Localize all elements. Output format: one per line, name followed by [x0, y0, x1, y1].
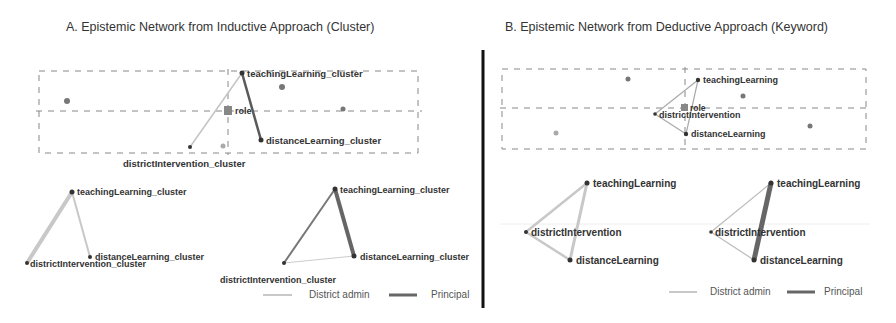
a-legend-principal: Principal — [431, 289, 469, 300]
panel-a-legend: District admin Principal — [263, 289, 469, 300]
a-sub2-label-district: districtIntervention_cluster — [220, 275, 337, 285]
a-legend-district-admin: District admin — [309, 289, 370, 300]
a-top-label-teaching: teachingLearning_cluster — [247, 68, 363, 79]
panel-b-top-points — [554, 77, 813, 137]
panel-b-sub1-edges — [526, 183, 587, 260]
a-top-label-role: role — [235, 106, 252, 116]
panel-a-sub2-edges — [284, 189, 354, 263]
a-top-label-distance: distanceLearning_cluster — [266, 135, 381, 146]
b-legend-principal: Principal — [824, 286, 862, 297]
b-top-label-distance: distanceLearning — [691, 129, 766, 139]
b-sub2-label-distance: distanceLearning — [760, 255, 843, 266]
b-sub2-label-district: districtIntervention — [715, 227, 806, 238]
b-sub2-label-teaching: teachingLearning — [777, 178, 860, 189]
a-sub2-label-teaching: teachingLearning_cluster — [340, 185, 450, 195]
b-sub1-label-district: districtIntervention — [531, 227, 622, 238]
b-sub1-label-distance: distanceLearning — [576, 255, 659, 266]
a-sub2-label-distance: distanceLearning_cluster — [360, 252, 470, 262]
panel-a-sub1-edges — [27, 192, 90, 263]
a-sub1-label-teaching: teachingLearning_cluster — [77, 187, 187, 197]
panel-b-sub2-edges — [711, 183, 771, 260]
a-top-label-district: districtIntervention_cluster — [123, 158, 246, 169]
panel-b-legend: District admin Principal — [669, 286, 862, 297]
b-sub1-label-teaching: teachingLearning — [593, 178, 676, 189]
network-diagram: teachingLearning_cluster distanceLearnin… — [0, 0, 896, 323]
a-sub1-label-district: districtIntervention_cluster — [30, 259, 147, 269]
b-top-label-teaching: teachingLearning — [703, 75, 778, 85]
b-legend-district-admin: District admin — [710, 286, 771, 297]
b-top-label-role: role — [690, 103, 706, 113]
